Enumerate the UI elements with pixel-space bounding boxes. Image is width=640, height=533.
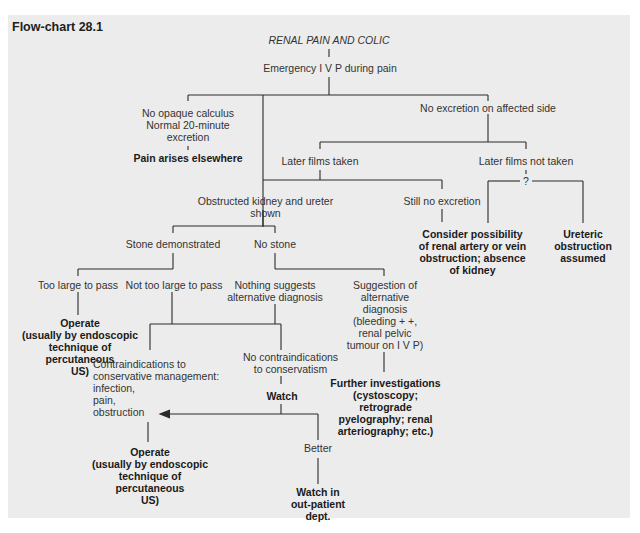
node-later-films-taken: Later films taken	[270, 155, 370, 167]
node-watch: Watch	[262, 390, 302, 402]
node-still-no-excretion: Still no excretion	[397, 195, 487, 207]
node-not-too-large: Not too large to pass	[124, 279, 224, 291]
node-watch-outpatient: Watch in out-patient dept.	[288, 486, 348, 522]
node-no-excretion: No excretion on affected side	[418, 102, 558, 114]
node-stone-demonstrated: Stone demonstrated	[123, 238, 223, 250]
node-emergency-ivp: Emergency I V P during pain	[255, 62, 405, 74]
node-suggestion-alternative: Suggestion of alternative diagnosis (ble…	[340, 279, 430, 351]
node-pain-elsewhere: Pain arises elsewhere	[128, 152, 248, 164]
node-no-contraindications: No contraindications to conservatism	[238, 351, 343, 375]
node-later-films-not-taken: Later films not taken	[476, 155, 576, 167]
node-obstructed-kidney: Obstructed kidney and ureter shown	[183, 195, 348, 219]
node-ureteric-obstruction: Ureteric obstruction assumed	[550, 228, 616, 264]
node-consider-renal-artery: Consider possibility of renal artery or …	[410, 228, 535, 276]
node-renal-pain-colic: RENAL PAIN AND COLIC	[258, 34, 400, 46]
node-no-stone: No stone	[250, 238, 300, 250]
node-operate-2: Operate (usually by endoscopic technique…	[90, 446, 210, 506]
node-nothing-suggests: Nothing suggests alternative diagnosis	[225, 279, 325, 303]
node-better: Better	[298, 442, 338, 454]
node-contraindications: Contraindications to conservative manage…	[93, 358, 223, 418]
node-too-large: Too large to pass	[28, 279, 128, 291]
node-no-opaque-calculus: No opaque calculus Normal 20-minute excr…	[128, 107, 248, 143]
node-question-mark: ?	[520, 175, 532, 187]
node-further-investigations: Further investigations (cystoscopy; retr…	[328, 377, 443, 437]
